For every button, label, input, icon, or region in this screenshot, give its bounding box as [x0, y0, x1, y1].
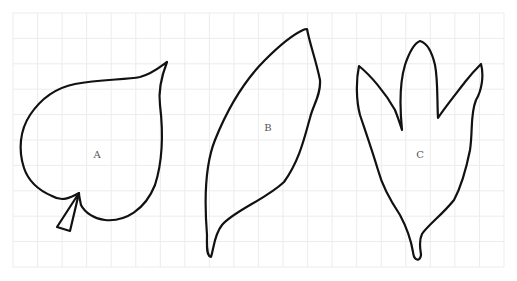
- leaf-b-outline: [205, 29, 320, 257]
- leaf-a: [21, 62, 167, 231]
- leaf-b: [205, 29, 320, 257]
- leaf-a-outline: [21, 62, 167, 220]
- leaf-c-label: C: [416, 149, 424, 160]
- leaf-a-label: A: [92, 149, 101, 160]
- leaf-diagram: A B C: [0, 0, 517, 281]
- leaf-b-label: B: [264, 122, 271, 133]
